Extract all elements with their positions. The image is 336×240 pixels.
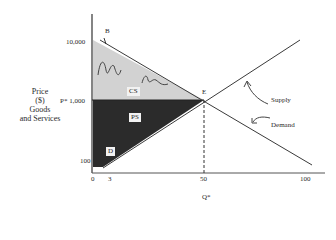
producer-surplus-region — [93, 100, 204, 167]
x-tick-3: 3 — [108, 176, 112, 183]
y-tick-10000: 10,000 — [66, 39, 85, 46]
x-tick-100: 100 — [300, 176, 311, 183]
y-label-line: and Services — [18, 114, 62, 123]
x-tick-0: 0 — [91, 176, 95, 183]
cs-label: CS — [127, 87, 140, 96]
y-label-line: ($) — [18, 96, 62, 105]
x-tick-50: 50 — [200, 176, 207, 183]
y-tick-pstar-1000: P* 1,000 — [60, 98, 85, 105]
demand-arrow-icon — [253, 117, 270, 122]
y-label-line: Price — [18, 87, 62, 96]
ps-label: PS — [129, 113, 141, 122]
demand-label: Demand — [271, 122, 295, 129]
d-label: D — [106, 147, 115, 156]
y-axis-label: Price ($) Goods and Services — [18, 87, 62, 123]
y-label-line: Goods — [18, 105, 62, 114]
y-tick-100: 100 — [80, 158, 91, 165]
supply-label: Supply — [271, 97, 291, 104]
point-e-label: E — [202, 89, 206, 96]
point-b-label: B — [105, 28, 110, 35]
x-axis-label: Q* — [202, 194, 211, 201]
